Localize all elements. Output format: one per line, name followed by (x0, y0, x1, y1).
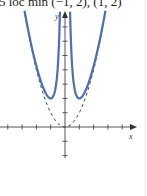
curve-right-branch (70, 11, 105, 99)
y-axis-label: y (54, 12, 59, 21)
x-axis-arrow-icon (130, 124, 137, 130)
x-axis-label: x (128, 132, 133, 141)
graph: x y (0, 0, 147, 196)
x-axis (0, 124, 137, 130)
curve-left-branch (25, 11, 60, 99)
y-axis-arrow-icon (62, 11, 68, 18)
y-axis (62, 11, 68, 158)
